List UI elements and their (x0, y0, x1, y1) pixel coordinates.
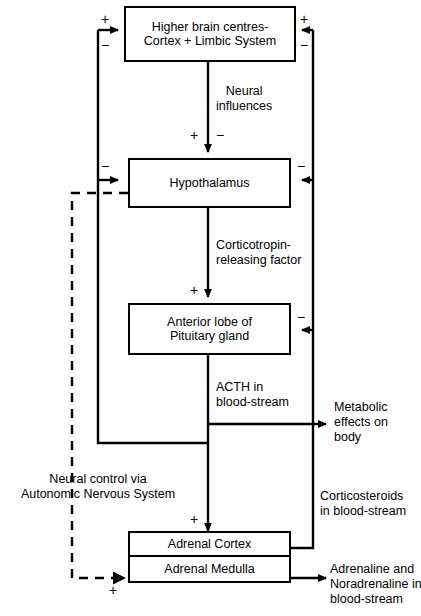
sign-neural-minus: − (216, 128, 224, 142)
label-neural-influences: Neural influences (216, 84, 272, 114)
box-adrenal-medulla: Adrenal Medulla (130, 557, 289, 581)
metabolic-line3: body (334, 430, 388, 445)
sign-top-left-plus: + (101, 12, 109, 26)
corticosteroids-line1: Corticosteroids (320, 489, 406, 504)
adrenaline-line1: Adrenaline and (330, 562, 421, 577)
label-corticosteroids-bloodstream: Corticosteroids in blood-stream (320, 489, 406, 519)
crf-line2: releasing factor (216, 253, 301, 268)
box-hypothalamus: Hypothalamus (128, 158, 291, 208)
label-corticotropin-releasing-factor: Corticotropin- releasing factor (216, 238, 301, 268)
sign-hypothalamus-right-minus: − (297, 159, 305, 173)
neural-control-line2: Autonomic Nervous System (8, 487, 188, 502)
higher-brain-line1: Higher brain centres- (152, 20, 269, 34)
sign-top-right-plus: + (300, 12, 308, 26)
higher-brain-line2: Cortex + Limbic System (144, 34, 276, 48)
metabolic-line1: Metabolic (334, 400, 388, 415)
adrenal-cortex-label: Adrenal Cortex (168, 537, 251, 551)
box-higher-brain-centres: Higher brain centres- Cortex + Limbic Sy… (124, 6, 296, 62)
diagram-canvas: Higher brain centres- Cortex + Limbic Sy… (0, 0, 421, 616)
hypothalamus-label: Hypothalamus (170, 176, 250, 190)
neural-control-line1: Neural control via (8, 472, 188, 487)
crf-line1: Corticotropin- (216, 238, 301, 253)
box-adrenal-cortex: Adrenal Cortex (130, 533, 289, 557)
adrenaline-line2: Noradrenaline in (330, 577, 421, 592)
sign-hypothalamus-left-minus: − (101, 159, 109, 173)
neural-influences-line2: influences (216, 99, 272, 114)
box-adrenal-gland: Adrenal Cortex Adrenal Medulla (128, 531, 291, 583)
metabolic-line2: effects on (334, 415, 388, 430)
adrenaline-line3: blood-stream (330, 592, 421, 607)
sign-crf-plus: + (190, 283, 198, 297)
label-metabolic-effects: Metabolic effects on body (334, 400, 388, 445)
acth-line2: blood-stream (216, 395, 289, 410)
acth-line1: ACTH in (216, 380, 289, 395)
label-adrenaline-noradrenaline: Adrenaline and Noradrenaline in blood-st… (330, 562, 421, 607)
sign-top-right-minus: − (300, 38, 308, 52)
label-neural-control-ans: Neural control via Autonomic Nervous Sys… (8, 472, 188, 502)
sign-pituitary-right-minus: − (297, 310, 305, 324)
label-acth-bloodstream: ACTH in blood-stream (216, 380, 289, 410)
adrenal-medulla-label: Adrenal Medulla (164, 562, 254, 576)
corticosteroids-line2: in blood-stream (320, 504, 406, 519)
pituitary-line1: Anterior lobe of (167, 315, 252, 329)
neural-influences-line1: Neural (216, 84, 272, 99)
sign-adrenal-top-plus: + (190, 512, 198, 526)
pituitary-line2: Pituitary gland (170, 329, 249, 343)
box-anterior-pituitary: Anterior lobe of Pituitary gland (128, 303, 291, 355)
sign-top-left-minus: − (101, 38, 109, 52)
sign-medulla-left-plus: + (109, 583, 117, 597)
sign-neural-plus: + (190, 128, 198, 142)
